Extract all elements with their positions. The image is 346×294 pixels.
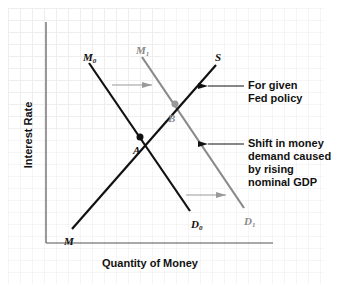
x-axis-title: Quantity of Money [102, 257, 199, 269]
money-market-diagram: Interest Rate Quantity of Money M0 M1 S … [0, 0, 346, 294]
label-point-a: A [132, 144, 140, 156]
annotation-fed-policy: For given Fed policy [248, 79, 303, 104]
y-axis-title: Interest Rate [22, 102, 34, 169]
label-point-b: B [167, 112, 175, 124]
equilibrium-point-b [172, 101, 179, 108]
label-m: M [63, 235, 75, 247]
label-s: S [215, 51, 221, 63]
equilibrium-point-a [137, 134, 144, 141]
